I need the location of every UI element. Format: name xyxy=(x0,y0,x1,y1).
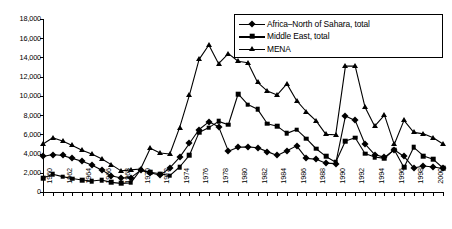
data-point-marker xyxy=(187,153,192,158)
data-point-marker xyxy=(158,171,163,176)
data-point-marker xyxy=(274,92,280,97)
data-point-marker xyxy=(79,147,85,152)
data-point-marker xyxy=(372,123,378,128)
data-point-marker xyxy=(148,170,153,175)
data-point-marker xyxy=(236,92,241,97)
data-point-marker xyxy=(89,151,95,156)
data-point-marker xyxy=(99,156,105,161)
legend-label: MENA xyxy=(267,45,291,54)
legend-item-africa-north-of-sahara[interactable]: Africa–North of Sahara, total xyxy=(239,18,438,31)
data-point-marker xyxy=(177,125,183,130)
data-point-marker xyxy=(40,141,46,146)
data-point-marker xyxy=(284,81,290,86)
data-point-marker xyxy=(89,179,94,184)
data-point-marker xyxy=(70,176,75,181)
data-point-marker xyxy=(353,135,358,140)
data-point-marker xyxy=(235,58,241,63)
data-point-marker xyxy=(108,162,114,167)
data-point-marker xyxy=(421,154,426,159)
data-point-marker xyxy=(60,174,65,179)
data-point-marker xyxy=(41,176,46,181)
data-point-marker xyxy=(363,151,368,156)
data-point-marker xyxy=(313,118,319,123)
data-point-marker xyxy=(441,166,446,171)
data-point-marker xyxy=(275,124,280,129)
square-marker-icon xyxy=(239,31,265,42)
legend-item-middle-east[interactable]: Middle East, total xyxy=(239,31,438,44)
data-point-marker xyxy=(323,131,329,136)
data-point-marker xyxy=(129,181,134,186)
data-point-marker xyxy=(333,132,339,137)
data-point-marker xyxy=(80,178,85,183)
data-point-marker xyxy=(372,155,377,160)
data-point-marker xyxy=(50,172,55,177)
data-point-marker xyxy=(362,104,368,109)
data-point-marker xyxy=(245,60,251,65)
data-point-marker xyxy=(206,42,212,47)
data-point-marker xyxy=(157,150,163,155)
data-point-marker xyxy=(119,181,124,186)
data-point-marker xyxy=(431,157,436,162)
data-point-marker xyxy=(138,166,144,171)
data-point-marker xyxy=(333,160,338,165)
data-point-marker xyxy=(225,51,231,56)
data-point-marker xyxy=(430,135,436,140)
legend-label: Africa–North of Sahara, total xyxy=(267,20,370,29)
legend-item-mena[interactable]: MENA xyxy=(239,43,438,56)
data-point-marker xyxy=(196,56,202,61)
data-point-marker xyxy=(411,145,416,150)
data-point-marker xyxy=(216,119,221,124)
data-point-marker xyxy=(402,165,407,170)
data-point-marker xyxy=(342,63,348,68)
data-point-marker xyxy=(168,173,173,178)
data-point-marker xyxy=(167,151,173,156)
data-point-marker xyxy=(197,130,202,135)
data-point-marker xyxy=(420,131,426,136)
data-point-marker xyxy=(60,138,66,143)
data-point-marker xyxy=(304,136,309,141)
data-point-marker xyxy=(186,92,192,97)
data-point-marker xyxy=(265,121,270,126)
data-point-marker xyxy=(216,61,222,66)
data-point-marker xyxy=(207,125,212,130)
data-point-marker xyxy=(50,135,56,140)
data-point-marker xyxy=(69,142,75,147)
data-point-marker xyxy=(294,127,299,132)
data-point-marker xyxy=(352,63,358,68)
data-point-marker xyxy=(440,141,446,146)
data-point-marker xyxy=(109,180,114,185)
data-point-marker xyxy=(314,146,319,151)
data-point-marker xyxy=(391,141,397,146)
data-point-marker xyxy=(264,88,270,93)
data-point-marker xyxy=(303,109,309,114)
data-point-marker xyxy=(118,168,124,173)
series-line xyxy=(43,45,443,171)
data-point-marker xyxy=(99,178,104,183)
data-point-marker xyxy=(255,107,260,112)
data-point-marker xyxy=(381,112,387,117)
data-point-marker xyxy=(128,167,134,172)
data-point-marker xyxy=(177,165,182,170)
line-chart: 18,00016,00014,00012,00010,0008,0006,000… xyxy=(0,0,452,229)
data-point-marker xyxy=(226,122,231,127)
data-point-marker xyxy=(401,117,407,122)
data-point-marker xyxy=(294,98,300,103)
data-point-marker xyxy=(285,131,290,136)
chart-legend: Africa–North of Sahara, total Middle Eas… xyxy=(234,14,443,58)
triangle-marker-icon xyxy=(239,44,265,55)
data-point-marker xyxy=(392,147,397,152)
data-point-marker xyxy=(246,102,251,107)
data-point-marker xyxy=(255,79,261,84)
data-point-marker xyxy=(343,139,348,144)
diamond-marker-icon xyxy=(239,19,265,30)
data-point-marker xyxy=(147,145,153,150)
data-point-marker xyxy=(324,154,329,159)
data-point-marker xyxy=(382,156,387,161)
legend-label: Middle East, total xyxy=(267,32,329,41)
data-point-marker xyxy=(411,129,417,134)
